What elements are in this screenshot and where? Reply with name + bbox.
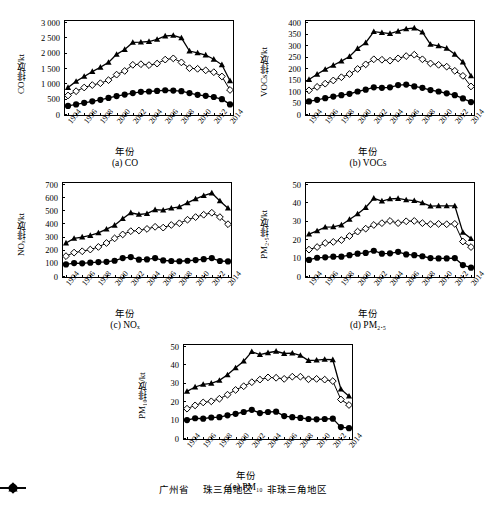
xtick-mark [276, 437, 277, 440]
xtick-mark [115, 275, 116, 278]
xtick-mark [317, 113, 318, 116]
ytick-mark [183, 346, 186, 347]
xtick-mark [471, 113, 472, 116]
ytick-mark [305, 239, 308, 240]
legend-label-guangzhou: 广州省 [159, 482, 189, 496]
xtick-mark [74, 275, 75, 278]
legend-label-prd: 珠三角地区 [203, 482, 253, 496]
xtick-mark [133, 113, 134, 116]
xtick-mark [90, 275, 91, 278]
panel-nox-xlabel: 年份 [10, 306, 240, 320]
ytick-label: 400 [45, 219, 58, 229]
xtick-mark [341, 113, 342, 116]
panel-pm10-yticks: 01020304050 [143, 344, 179, 440]
ytick-mark [305, 114, 308, 115]
xtick-mark [390, 113, 391, 116]
panel-vocs-lines [305, 20, 475, 116]
panel-nox-yticks: 0100200300400500600700 [22, 182, 58, 278]
xtick-mark [98, 275, 99, 278]
ytick-label: 2 000 [41, 48, 60, 58]
xtick-mark [390, 275, 391, 278]
xtick-mark [181, 113, 182, 116]
legend-item-non-prd: 非珠三角地区 [267, 482, 327, 496]
panel-co-xlabel: 年份 [10, 144, 240, 158]
xtick-mark [455, 113, 456, 116]
xtick-mark [349, 437, 350, 440]
xtick-mark [171, 275, 172, 278]
panel-vocs: VOCs排放/kt 050100150200250300350400 19941… [243, 8, 486, 168]
ytick-mark [305, 80, 308, 81]
legend-item-guangzhou: 广州省 [159, 482, 189, 496]
xtick-mark [188, 275, 189, 278]
xtick-mark [165, 113, 166, 116]
xtick-mark [325, 275, 326, 278]
ytick-mark [64, 53, 67, 54]
xtick-mark [431, 275, 432, 278]
ytick-label: 400 [288, 18, 301, 28]
panel-pm10-xlabel: 年份 [131, 468, 361, 482]
panel-pm10-plot: 01020304050 1994199619982000200220042006… [183, 344, 353, 440]
ytick-label: 40 [171, 360, 180, 370]
panel-vocs-caption: (b) VOCs [253, 158, 483, 168]
panel-vocs-plot: 050100150200250300350400 199419961998200… [305, 20, 475, 116]
xtick-mark [292, 437, 293, 440]
ytick-label: 30 [293, 216, 302, 226]
panel-pm25-yticks: 01020304050 [265, 182, 301, 278]
xtick-mark [211, 437, 212, 440]
ytick-mark [183, 364, 186, 365]
xtick-mark [382, 275, 383, 278]
panel-nox: NOₓ排放/kt 0100200300400500600700 19941996… [0, 170, 243, 330]
ytick-label: 30 [171, 378, 180, 388]
ytick-mark [305, 91, 308, 92]
xtick-mark [141, 113, 142, 116]
xtick-mark [157, 113, 158, 116]
xtick-mark [219, 437, 220, 440]
ytick-mark [62, 197, 65, 198]
ytick-label: 1 500 [41, 64, 60, 74]
xtick-mark [374, 113, 375, 116]
ytick-mark [305, 22, 308, 23]
xtick-mark [123, 275, 124, 278]
ytick-mark [62, 276, 65, 277]
xtick-mark [179, 275, 180, 278]
xtick-mark [139, 275, 140, 278]
xtick-mark [244, 437, 245, 440]
ytick-label: 500 [45, 206, 58, 216]
xtick-mark [147, 275, 148, 278]
xtick-mark [422, 275, 423, 278]
ytick-label: 700 [45, 180, 58, 190]
figure-container: CO排放/kt 05001 0001 5002 0002 5003 000 19… [0, 0, 486, 511]
ytick-mark [62, 250, 65, 251]
ytick-label: 50 [293, 180, 302, 190]
ytick-label: 1 000 [41, 79, 60, 89]
xtick-mark [455, 275, 456, 278]
xtick-mark [366, 275, 367, 278]
ytick-mark [183, 438, 186, 439]
ytick-label: 200 [45, 245, 58, 255]
xtick-mark [358, 113, 359, 116]
xtick-mark [220, 275, 221, 278]
xtick-mark [333, 437, 334, 440]
xtick-mark [300, 437, 301, 440]
ytick-mark [305, 184, 308, 185]
xtick-mark [236, 437, 237, 440]
ytick-mark [183, 383, 186, 384]
ytick-mark [305, 258, 308, 259]
ytick-label: 150 [288, 75, 301, 85]
xtick-mark [398, 275, 399, 278]
xtick-mark [76, 113, 77, 116]
xtick-mark [447, 113, 448, 116]
xtick-mark [228, 275, 229, 278]
ytick-label: 300 [45, 232, 58, 242]
xtick-mark [196, 275, 197, 278]
ytick-mark [305, 45, 308, 46]
xtick-mark [260, 437, 261, 440]
xtick-mark [439, 113, 440, 116]
xtick-mark [230, 113, 231, 116]
xtick-mark [204, 275, 205, 278]
ytick-label: 0 [297, 110, 301, 120]
filled-circle-icon [0, 482, 26, 494]
xtick-mark [382, 113, 383, 116]
ytick-label: 10 [293, 253, 302, 263]
xtick-mark [107, 275, 108, 278]
